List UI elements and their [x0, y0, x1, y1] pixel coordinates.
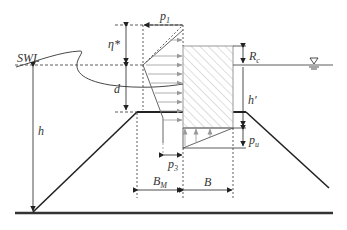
pu-sub: u: [255, 140, 259, 149]
rc-label: Rc: [249, 50, 260, 65]
h-prime-label: h′: [248, 94, 257, 106]
rc-sub: c: [256, 56, 260, 65]
bm-label: BM: [153, 175, 167, 190]
uplift-pressure: [183, 128, 233, 148]
caisson: [183, 46, 233, 128]
wave-profile: [16, 51, 183, 87]
p1-label: p1: [160, 10, 170, 25]
h-label: h: [38, 125, 44, 137]
rubble-mound: [33, 112, 329, 212]
d-label: d: [114, 83, 120, 95]
pu-label: pu: [249, 134, 259, 149]
b-label: B: [204, 176, 211, 188]
swl-label: SWL: [17, 52, 40, 64]
p3-sub: 3: [174, 164, 178, 173]
breakwater-pressure-diagram: SWL p1 η* d h Rc h′ pu p3 BM B: [0, 0, 347, 230]
eta-label: η*: [108, 38, 120, 50]
bm-sub: M: [160, 181, 167, 190]
water-level-symbol: [309, 58, 319, 69]
p3-label: p3: [168, 158, 178, 173]
diagram-svg: [0, 0, 347, 230]
horizontal-pressure-arrows: [146, 40, 182, 120]
p1-sub: 1: [166, 16, 170, 25]
swl-text: SWL: [17, 51, 40, 65]
